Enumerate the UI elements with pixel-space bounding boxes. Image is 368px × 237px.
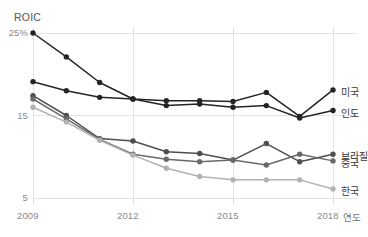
data-point <box>164 98 169 103</box>
x-tick-label: 2012 <box>117 210 139 221</box>
data-point <box>297 177 302 182</box>
y-tick-label: 5 <box>0 192 28 203</box>
series-0 <box>30 30 335 119</box>
series-layer <box>30 30 335 191</box>
data-point <box>164 103 169 108</box>
data-point <box>197 151 202 156</box>
data-point <box>330 87 335 92</box>
data-point <box>97 95 102 100</box>
data-point <box>164 149 169 154</box>
data-point <box>230 177 235 182</box>
data-point <box>97 138 102 143</box>
series-2 <box>30 93 335 164</box>
data-point <box>197 159 202 164</box>
data-point <box>97 80 102 85</box>
data-point <box>230 105 235 110</box>
data-point <box>130 138 135 143</box>
y-tick-label: 25% <box>0 27 28 38</box>
data-point <box>164 166 169 171</box>
data-point <box>264 177 269 182</box>
data-point <box>230 99 235 104</box>
data-point <box>164 157 169 162</box>
x-axis-unit: 연도 <box>343 210 361 224</box>
data-point <box>264 141 269 146</box>
data-point <box>330 152 335 157</box>
data-point <box>297 115 302 120</box>
x-tick-label: 2015 <box>217 210 239 221</box>
data-point <box>264 103 269 108</box>
data-point <box>264 162 269 167</box>
legend-label-0: 미국 <box>341 84 359 99</box>
data-point <box>64 119 69 124</box>
data-point <box>264 90 269 95</box>
legend-label-4: 한국 <box>341 183 359 198</box>
data-point <box>64 88 69 93</box>
data-point <box>297 159 302 164</box>
data-point <box>330 158 335 163</box>
data-point <box>30 79 35 84</box>
data-point <box>30 96 35 101</box>
data-point <box>297 152 302 157</box>
data-point <box>330 108 335 113</box>
x-tick-label: 2009 <box>17 210 39 221</box>
data-point <box>64 54 69 59</box>
data-point <box>230 157 235 162</box>
series-4 <box>30 105 335 192</box>
y-tick-label: 15 <box>0 110 28 121</box>
series-1 <box>30 79 335 121</box>
data-point <box>130 152 135 157</box>
data-point <box>197 101 202 106</box>
legend-label-1: 인도 <box>341 105 359 120</box>
data-point <box>330 186 335 191</box>
series-3 <box>30 96 335 167</box>
legend-label-3: 중국 <box>341 155 359 170</box>
data-point <box>30 30 35 35</box>
data-point <box>130 96 135 101</box>
data-point <box>30 105 35 110</box>
x-tick-label: 2018 <box>317 210 339 221</box>
data-point <box>197 174 202 179</box>
